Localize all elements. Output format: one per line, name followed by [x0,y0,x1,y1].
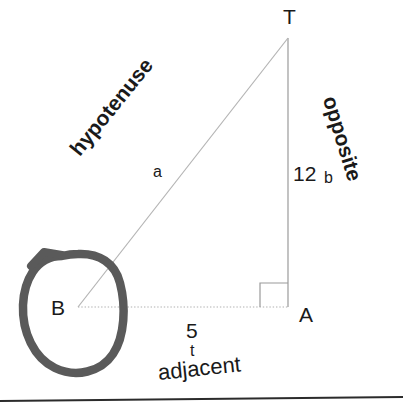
vertex-label-A: A [299,304,313,325]
measure-opposite-12: 12 [293,163,316,184]
variable-label-a: a [153,164,162,180]
vertex-label-T: T [283,6,296,27]
variable-label-b: b [324,170,333,186]
diagram-canvas: T A B 12 5 a b t hypotenuse opposite adj… [0,0,403,420]
right-angle-marker [260,283,288,307]
bottom-rule [0,397,403,401]
measure-adjacent-5: 5 [186,320,198,341]
hand-drawn-circle-annotation [23,252,124,373]
vertex-label-B: B [51,297,65,318]
